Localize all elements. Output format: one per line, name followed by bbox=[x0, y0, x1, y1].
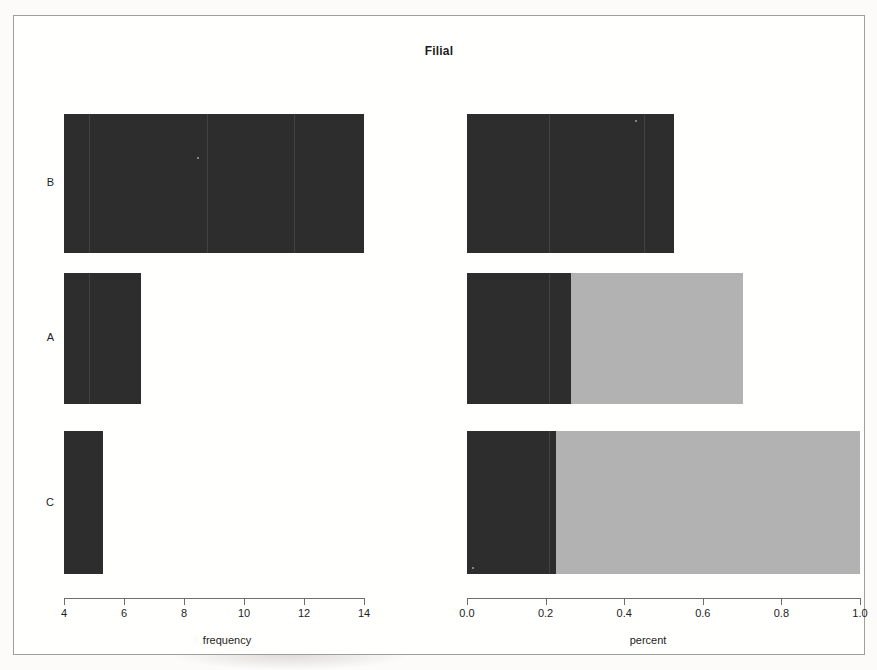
axis-tick bbox=[624, 598, 625, 605]
bar-row-b bbox=[22, 114, 432, 253]
axis-tick-label: 0.4 bbox=[617, 607, 632, 619]
bar-frequency-b[interactable] bbox=[64, 114, 364, 253]
bar-row-c bbox=[22, 431, 432, 574]
bar-percent-a-dark[interactable] bbox=[467, 273, 571, 404]
axis-tick-label: 4 bbox=[61, 607, 67, 619]
plot-region-frequency: B A C bbox=[22, 86, 432, 586]
bar-percent-c-dark[interactable] bbox=[467, 431, 556, 574]
axis-frequency: 4 6 8 10 12 14 bbox=[64, 598, 364, 599]
bar-row-c-percent bbox=[432, 431, 864, 574]
axis-tick bbox=[467, 598, 468, 605]
category-label-a: A bbox=[30, 331, 54, 343]
bar-frequency-a[interactable] bbox=[64, 273, 141, 404]
bar-row-a-percent bbox=[432, 273, 864, 404]
bar-percent-c-light[interactable] bbox=[556, 431, 860, 574]
category-label-b: B bbox=[30, 176, 54, 188]
axis-tick bbox=[124, 598, 125, 605]
axis-tick-label: 14 bbox=[358, 607, 370, 619]
category-label-c: C bbox=[30, 496, 54, 508]
axis-tick bbox=[184, 598, 185, 605]
axis-tick bbox=[244, 598, 245, 605]
panel-percent: 0.0 0.2 0.4 0.6 0.8 1.0 percent bbox=[432, 86, 864, 641]
axis-tick bbox=[703, 598, 704, 605]
figure-frame: Filial B A C bbox=[13, 15, 865, 655]
axis-tick-label: 12 bbox=[298, 607, 310, 619]
axis-tick bbox=[546, 598, 547, 605]
axis-tick bbox=[781, 598, 782, 605]
page-title: Filial bbox=[14, 44, 864, 58]
bar-percent-b-dark[interactable] bbox=[467, 114, 674, 253]
axis-title-percent: percent bbox=[432, 634, 864, 646]
axis-tick-label: 8 bbox=[181, 607, 187, 619]
plot-region-percent bbox=[432, 86, 864, 586]
axis-tick bbox=[364, 598, 365, 605]
axis-tick-label: 6 bbox=[121, 607, 127, 619]
axis-tick bbox=[304, 598, 305, 605]
bar-row-b-percent bbox=[432, 114, 864, 253]
axis-tick bbox=[860, 598, 861, 605]
axis-percent: 0.0 0.2 0.4 0.6 0.8 1.0 bbox=[467, 598, 860, 599]
axis-tick-label: 0.6 bbox=[695, 607, 710, 619]
bar-frequency-c[interactable] bbox=[64, 431, 103, 574]
bar-percent-a-light[interactable] bbox=[571, 273, 743, 404]
axis-tick-label: 0.8 bbox=[774, 607, 789, 619]
axis-tick-label: 10 bbox=[238, 607, 250, 619]
axis-tick-label: 0.2 bbox=[538, 607, 553, 619]
axis-tick bbox=[64, 598, 65, 605]
panel-frequency: B A C 4 6 8 10 12 14 bbox=[22, 86, 432, 641]
axis-title-frequency: frequency bbox=[22, 634, 432, 646]
axis-tick-label: 0.0 bbox=[459, 607, 474, 619]
bar-row-a bbox=[22, 273, 432, 404]
axis-tick-label: 1.0 bbox=[852, 607, 867, 619]
